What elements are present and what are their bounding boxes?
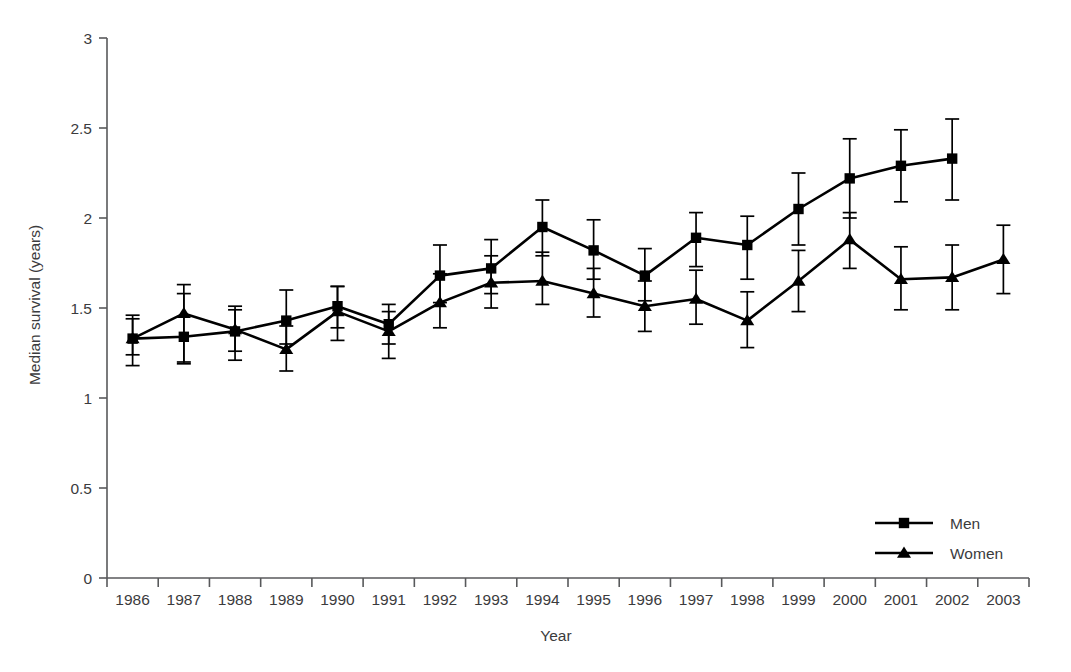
data-point-square-marker bbox=[640, 270, 650, 280]
x-axis-tick-label: 1988 bbox=[218, 591, 252, 608]
x-axis-tick-label: 1992 bbox=[423, 591, 457, 608]
data-point-square-marker bbox=[896, 161, 906, 171]
data-point-square-marker bbox=[742, 240, 752, 250]
x-axis-tick-label: 1997 bbox=[679, 591, 713, 608]
x-axis-tick-label: 2000 bbox=[832, 591, 867, 608]
y-axis-tick-label: 1.5 bbox=[70, 300, 92, 317]
y-axis-tick-label: 2 bbox=[83, 210, 92, 227]
data-point-square-marker bbox=[691, 233, 701, 243]
x-axis-tick-label: 1996 bbox=[628, 591, 662, 608]
x-axis-tick-label: 1995 bbox=[576, 591, 610, 608]
x-axis-tick-label: 1999 bbox=[781, 591, 815, 608]
x-axis-tick-label: 2002 bbox=[935, 591, 969, 608]
x-axis-tick-label: 1986 bbox=[115, 591, 149, 608]
x-axis-tick-label: 1989 bbox=[269, 591, 303, 608]
y-axis-tick-label: 3 bbox=[83, 30, 92, 47]
x-axis-tick-label: 2003 bbox=[986, 591, 1020, 608]
data-point-square-marker bbox=[947, 153, 957, 163]
data-point-square-marker bbox=[588, 245, 598, 255]
x-axis-tick-label: 1991 bbox=[371, 591, 405, 608]
x-axis-tick-label: 1990 bbox=[320, 591, 355, 608]
data-point-square-marker bbox=[537, 222, 547, 232]
x-axis-tick-label: 1994 bbox=[525, 591, 560, 608]
x-axis-title: Year bbox=[540, 627, 571, 644]
y-axis-tick-label: 2.5 bbox=[70, 120, 92, 137]
chart-background bbox=[0, 0, 1071, 672]
legend-label-men: Men bbox=[950, 515, 980, 532]
chart-canvas: 00.511.522.53 19861987198819891990199119… bbox=[0, 0, 1071, 672]
x-axis-tick-label: 2001 bbox=[884, 591, 918, 608]
y-axis-tick-label: 1 bbox=[83, 390, 92, 407]
data-point-square-marker bbox=[281, 315, 291, 325]
data-point-square-marker bbox=[845, 173, 855, 183]
legend-label-women: Women bbox=[950, 545, 1003, 562]
x-axis-tick-label: 1998 bbox=[730, 591, 764, 608]
data-point-square-marker bbox=[899, 518, 909, 528]
data-point-square-marker bbox=[793, 204, 803, 214]
median-survival-chart: 00.511.522.53 19861987198819891990199119… bbox=[0, 0, 1071, 672]
y-axis-tick-label: 0 bbox=[83, 570, 92, 587]
x-axis-tick-label: 1987 bbox=[167, 591, 201, 608]
y-axis-title: Median survival (years) bbox=[26, 225, 43, 385]
x-axis-tick-label: 1993 bbox=[474, 591, 508, 608]
y-axis-tick-label: 0.5 bbox=[70, 480, 92, 497]
